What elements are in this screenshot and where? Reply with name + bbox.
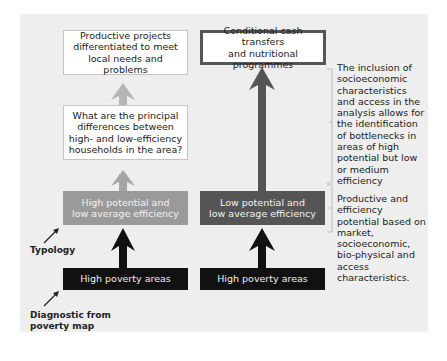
conditional-cash-transfers-box: Conditional cash transfers and nutrition… xyxy=(200,30,326,65)
low-potential-low-efficiency-box: Low potential and low average efficiency xyxy=(200,191,325,225)
upper-annotation-text: The inclusion of socioeconomic character… xyxy=(337,62,427,186)
diagnostic-pointer-arrow-icon xyxy=(44,291,59,306)
typology-label: Typology xyxy=(30,245,75,256)
diagnostic-label: Diagnostic from poverty map xyxy=(30,310,111,332)
high-poverty-areas-box-right: High poverty areas xyxy=(200,268,325,290)
high-poverty-areas-box-left: High poverty areas xyxy=(63,268,188,290)
productive-projects-box: Productive projects differentiated to me… xyxy=(63,30,188,75)
lower-bracket xyxy=(327,185,332,232)
black-up-arrow-icon-right xyxy=(249,228,275,268)
high-potential-low-efficiency-box: High potential and low average efficienc… xyxy=(63,191,188,225)
pale-up-arrow-icon xyxy=(111,83,135,106)
lower-annotation-text: Productive and efficiency potential base… xyxy=(337,193,427,283)
principal-differences-question-box: What are the principal differences betwe… xyxy=(63,105,188,160)
typology-pointer-arrow-icon xyxy=(44,228,59,243)
upper-bracket xyxy=(327,69,332,183)
black-up-arrow-icon-left xyxy=(111,228,135,268)
dark-up-arrow-icon-right xyxy=(249,67,275,195)
